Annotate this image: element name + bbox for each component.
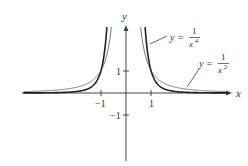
annotation-numerator: 1 xyxy=(192,26,197,36)
annotation-denominator-base: x xyxy=(217,65,222,75)
annotation-numerator: 1 xyxy=(221,52,226,62)
x-tick-label-1: 1 xyxy=(149,98,154,109)
annotation-denominator-exponent: 4 xyxy=(195,38,198,44)
annotation-inverse-x-squared: y = 1 x 2 xyxy=(198,52,229,75)
leader-line-x2 xyxy=(187,69,199,87)
annotation-lhs: y = xyxy=(198,58,213,69)
annotation-denominator-exponent: 2 xyxy=(224,64,227,70)
y-tick-label-neg1: −1 xyxy=(110,110,121,121)
annotation-inverse-x-fourth: y = 1 x 4 xyxy=(169,26,200,49)
annotation-denominator-base: x xyxy=(188,39,193,49)
y-tick-label-1: 1 xyxy=(116,66,121,77)
leader-line-x4 xyxy=(150,36,167,44)
annotation-lhs: y = xyxy=(169,32,184,43)
y-axis-label: y xyxy=(121,10,127,22)
y-axis-arrow-icon xyxy=(124,25,129,31)
x-axis-label: x xyxy=(235,87,241,99)
graph-canvas: x y −1 1 1 −1 y = 1 x 4 y = 1 x 2 xyxy=(0,0,248,166)
x-tick-label-neg1: −1 xyxy=(95,98,106,109)
